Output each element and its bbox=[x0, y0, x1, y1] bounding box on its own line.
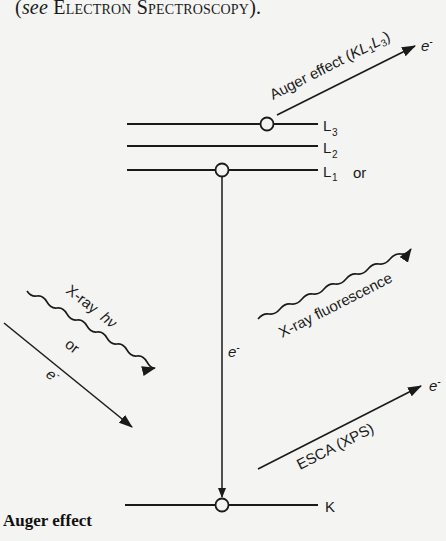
vacancy-circle-L1 bbox=[216, 164, 229, 177]
incoming-electron-arrow: e- bbox=[4, 323, 132, 427]
auger-electron-label: e- bbox=[421, 36, 433, 54]
auger-diagram: L 3 L 2 L 1 or K e- Auger effect (KL1L3)… bbox=[0, 0, 446, 541]
esca-emission-arrow: ESCA (XPS) e- bbox=[258, 376, 441, 473]
vacancy-circle-L3 bbox=[261, 118, 274, 131]
incoming-xray-label: X-rayhν bbox=[63, 281, 121, 331]
vacancy-circle-K bbox=[216, 499, 229, 512]
figure-caption: Auger effect bbox=[3, 511, 92, 531]
energy-level-L2: L 2 bbox=[127, 139, 338, 160]
level-label-L1-main: L bbox=[323, 163, 331, 180]
auger-emission-arrow: Auger effect (KL1L3) e- bbox=[267, 27, 434, 115]
energy-level-L1: L 1 or bbox=[127, 163, 366, 183]
level-label-L1-sub: 1 bbox=[332, 172, 338, 183]
transition-arrow-L1-to-K: e- bbox=[222, 177, 240, 497]
or-label-right: or bbox=[353, 164, 366, 181]
energy-level-K: K bbox=[125, 498, 335, 515]
level-label-L3-sub: 3 bbox=[332, 127, 338, 138]
esca-electron-label: e- bbox=[429, 376, 441, 394]
incoming-electron-label: e- bbox=[43, 364, 64, 386]
incoming-or-label: or bbox=[62, 335, 83, 357]
level-label-L2-main: L bbox=[323, 139, 331, 156]
incoming-xray-arrow: X-rayhν bbox=[27, 281, 155, 368]
transition-electron-label: e- bbox=[228, 342, 240, 360]
level-label-L3-main: L bbox=[323, 117, 331, 134]
energy-level-L3: L 3 bbox=[127, 117, 338, 138]
level-label-L2-sub: 2 bbox=[332, 149, 338, 160]
esca-xps-label: ESCA (XPS) bbox=[294, 419, 377, 472]
xray-fluorescence-arrow: X-ray fluorescence bbox=[258, 249, 411, 341]
level-label-K: K bbox=[325, 498, 335, 515]
